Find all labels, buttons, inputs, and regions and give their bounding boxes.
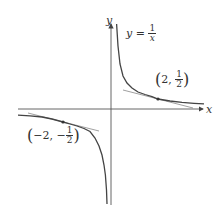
x-axis-label: x <box>206 103 212 116</box>
fraction-denominator: 2 <box>67 136 73 145</box>
y-axis-label: y <box>106 14 112 27</box>
fraction-denominator: 2 <box>176 80 182 89</box>
equation-fraction: 1 x <box>148 24 156 43</box>
point-sep: , <box>168 73 172 86</box>
point-x: −2 <box>33 129 49 142</box>
tangent-point-positive <box>156 97 159 100</box>
graph-svg <box>0 0 222 211</box>
point-label-positive: (2, 1 2 ) <box>155 70 189 89</box>
equation-equals: = <box>136 27 145 40</box>
curve-equation-label: y = 1 x <box>126 24 156 43</box>
equation-lhs: y <box>126 27 132 40</box>
point-y-fraction: 1 2 <box>175 70 183 89</box>
diagram-canvas: y x y = 1 x (2, 1 2 ) (−2, − 1 2 ) <box>0 0 222 211</box>
tangent-point-negative <box>61 120 64 123</box>
point-sep: , <box>49 129 53 142</box>
point-y-sign: − <box>56 129 65 142</box>
point-label-negative: (−2, − 1 2 ) <box>27 126 80 145</box>
fraction-denominator: x <box>150 34 155 43</box>
